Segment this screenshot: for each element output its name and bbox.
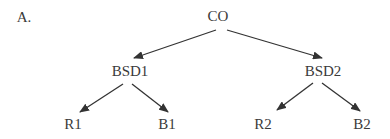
node-b2: B2 xyxy=(353,117,371,132)
edge-bsd2-b2 xyxy=(322,83,360,111)
node-co: CO xyxy=(208,9,229,24)
node-bsd1: BSD1 xyxy=(112,64,149,79)
panel-label: A. xyxy=(17,10,32,25)
edge-co-bsd2 xyxy=(227,30,322,58)
edge-bsd1-r1 xyxy=(80,84,123,112)
node-r2: R2 xyxy=(254,117,272,132)
hierarchy-diagram: A. CO BSD1 BSD2 R1 B1 R2 B2 xyxy=(0,0,390,139)
node-bsd2: BSD2 xyxy=(305,64,342,79)
edge-co-bsd1 xyxy=(134,30,216,58)
edge-bsd2-r2 xyxy=(277,83,313,110)
node-b1: B1 xyxy=(158,117,176,132)
edge-bsd1-b1 xyxy=(132,84,168,112)
node-r1: R1 xyxy=(64,117,82,132)
